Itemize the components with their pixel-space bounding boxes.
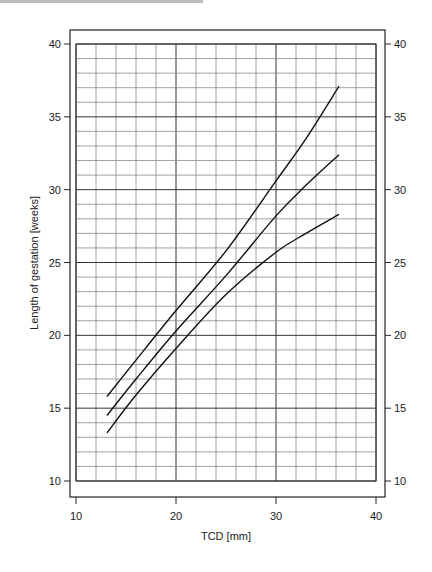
y-tick-label-left: 25	[49, 257, 61, 269]
gestation-chart: 102030401015202530354010152025303540 TCD…	[0, 0, 432, 572]
x-tick-label: 20	[170, 510, 182, 522]
x-axis-title: TCD [mm]	[201, 530, 251, 542]
y-tick-label-left: 20	[49, 329, 61, 341]
y-axis-title: Length of gestation [weeks]	[28, 196, 40, 330]
y-tick-label-left: 15	[49, 402, 61, 414]
middle-curve	[107, 155, 339, 416]
lower-curve	[107, 214, 339, 433]
outer-frame	[70, 30, 385, 497]
x-tick-label: 30	[270, 510, 282, 522]
axis-ticks: 102030401015202530354010152025303540	[49, 38, 407, 522]
grid-lines	[76, 44, 376, 481]
x-tick-label: 10	[70, 510, 82, 522]
y-tick-label-right: 10	[394, 475, 406, 487]
y-tick-label-left: 40	[49, 38, 61, 50]
y-tick-label-right: 20	[394, 329, 406, 341]
y-tick-label-left: 35	[49, 111, 61, 123]
y-tick-label-right: 25	[394, 257, 406, 269]
y-tick-label-left: 30	[49, 184, 61, 196]
x-tick-label: 40	[370, 510, 382, 522]
percentile-curves	[107, 86, 339, 433]
y-tick-label-left: 10	[49, 475, 61, 487]
y-tick-label-right: 15	[394, 402, 406, 414]
y-tick-label-right: 40	[394, 38, 406, 50]
y-tick-label-right: 35	[394, 111, 406, 123]
y-tick-label-right: 30	[394, 184, 406, 196]
